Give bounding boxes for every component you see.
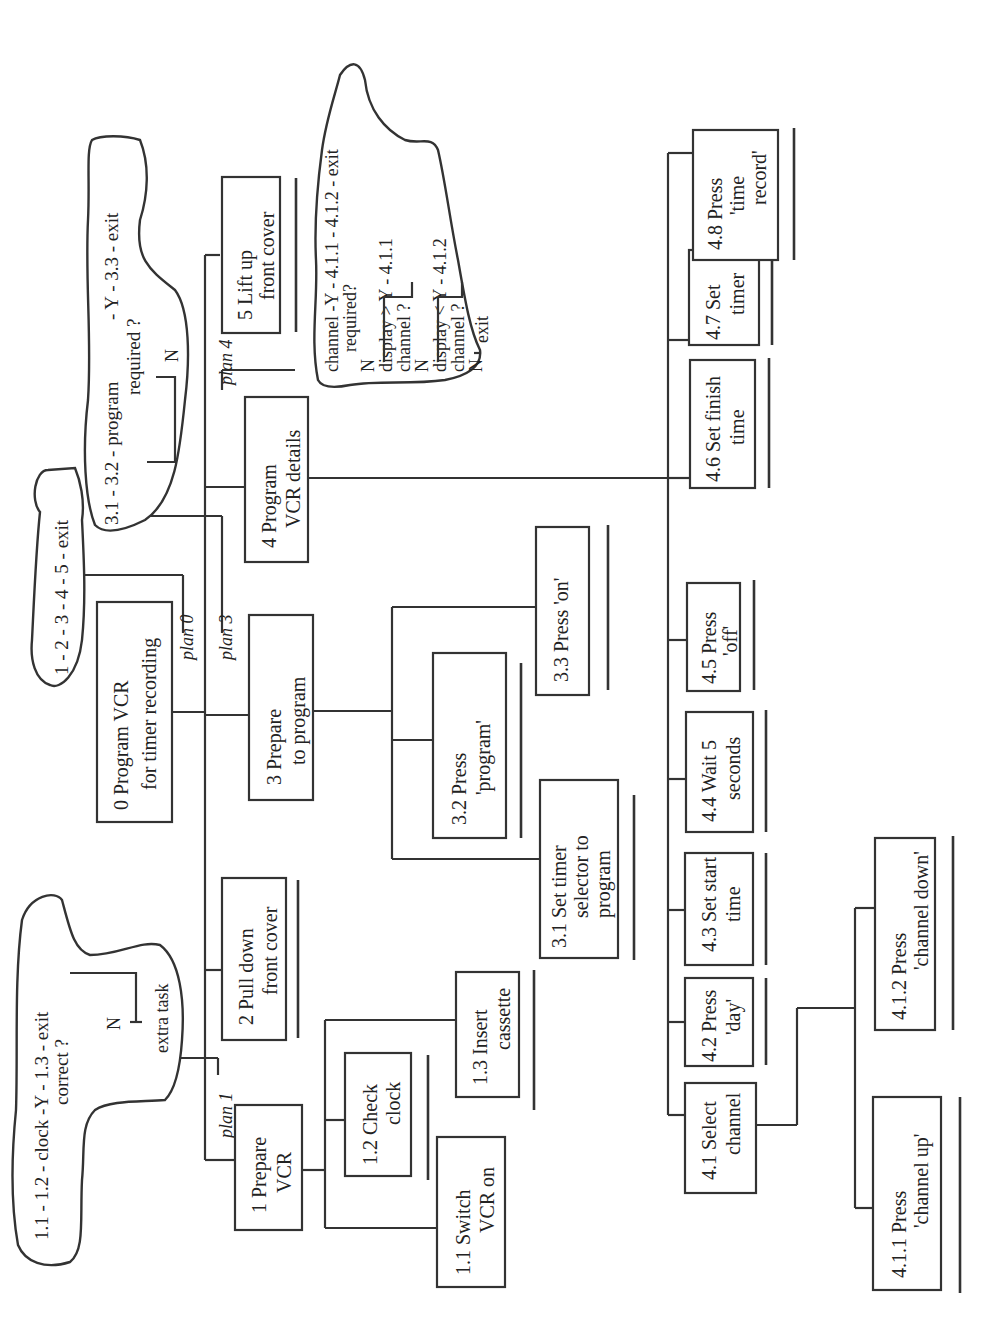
plan-3-n: N [162,349,182,362]
task-1-1-switch-vcr-on: 1.1 Switch VCR on [437,1137,505,1287]
plan-4-line2: required? [340,284,360,352]
task-4-8-press-time-record: 4.8 Press 'time record' [693,128,794,260]
task-4-program-vcr-details: 4 Program VCR details [245,397,308,562]
task-0-program-vcr: 0 Program VCR for timer recording [97,602,172,822]
task-4-1-2-line2: 'channel down' [910,851,932,970]
plan-1-n: N [104,1017,124,1030]
task-4-3-line2: time [722,886,744,922]
plan-0-label: plan 0 [177,614,197,662]
plan-4-line8: channel ? [448,304,468,372]
task-4-6-line2: time [726,409,748,445]
task-4-1-1-press-channel-up: 4.1.1 Press 'channel up' [873,1097,960,1293]
task-1-3-insert-cassette: 1.3 Insert cassette [456,970,534,1110]
plan-4-line3: N [358,359,378,372]
task-4-4-wait-5-seconds: 4.4 Wait 5 seconds [686,710,766,832]
task-1-2-line1: 1.2 Check [359,1084,381,1165]
task-4-8-line2: 'time [726,176,748,215]
task-4-8-line1: 4.8 Press [704,178,726,250]
task-5-lift-up-cover: 5 Lift up front cover [222,177,296,333]
task-4-4-line1: 4.4 Wait 5 [698,740,720,822]
hta-diagram: 1 - 2 - 3 - 4 - 5 - exit plan 0 1.1 - 1.… [0,0,984,1327]
task-3-line1: 3 Prepare [263,709,286,785]
task-4-line1: 4 Program [258,464,281,548]
task-3-1-line3: program [592,850,615,918]
task-1-1-line1: 1.1 Switch [452,1189,474,1275]
plan-4-line1: channel -Y - 4.1.1 - 4.1.2 - exit [322,149,342,372]
plan-1-label: plan 1 [216,1092,236,1140]
plan-3-line1: 3.1 - 3.2 - program [101,381,122,525]
task-2-line2: front cover [259,906,281,995]
task-1-3-line2: cassette [492,988,514,1050]
task-3-2-line2: 'program' [472,720,495,795]
task-3-prepare-to-program: 3 Prepare to program [249,615,313,800]
task-4-8-line3: record' [748,150,770,205]
task-4-7-set-timer: 4.7 Set timer [689,250,772,345]
plan-1-line2: correct ? [51,1039,72,1105]
task-4-2-line2: 'day' [722,999,745,1035]
task-4-1-line2: channel [722,1092,744,1155]
plan-3-line2: required ? [123,319,144,395]
task-1-1-line2: VCR on [476,1167,498,1233]
task-1-2-line2: clock [382,1082,404,1125]
task-3-line2: to program [287,676,310,765]
task-1-line2: VCR [273,1151,295,1193]
task-5-line1: 5 Lift up [234,250,257,320]
task-3-3-press-on: 3.3 Press 'on' [536,525,608,695]
plan-4-line6: N [412,359,432,372]
task-4-1-2-press-channel-down: 4.1.2 Press 'channel down' [875,836,953,1030]
plan-4-exit: exit [472,316,492,343]
task-3-1-line2: selector to [570,835,592,918]
task-0-line1: 0 Program VCR [110,680,133,810]
task-4-1-1-line1: 4.1.1 Press [888,1191,910,1278]
task-4-1-line1: 4.1 Select [698,1101,720,1180]
task-3-1-line1: 3.1 Set timer [548,845,570,948]
task-4-6-line1: 4.6 Set finish [702,376,724,482]
plan-4-cloud: channel -Y - 4.1.1 - 4.1.2 - exit requir… [314,64,492,387]
plan-3-line3: - Y - 3.3 - exit [101,212,122,320]
task-3-3-line1: 3.3 Press 'on' [550,578,572,682]
plan-1-line1: 1.1 - 1.2 - clock -Y - 1.3 - exit [31,1011,52,1240]
task-4-5-line2: 'off' [719,626,741,656]
task-3-2-line1: 3.2 Press [448,753,470,825]
task-4-3-line1: 4.3 Set start [698,857,720,952]
task-3-2-press-program: 3.2 Press 'program' [433,653,521,838]
task-4-1-1-line2: 'channel up' [910,1134,933,1228]
task-4-1-2-line1: 4.1.2 Press [888,933,910,1020]
task-4-1-select-channel: 4.1 Select channel [685,1083,756,1193]
plan-0-text: 1 - 2 - 3 - 4 - 5 - exit [51,519,72,675]
task-1-line1: 1 Prepare [248,1137,271,1213]
plan-4-label: plan 4 [216,339,236,387]
task-5-line2: front cover [256,211,278,300]
task-4-5-line1: 4.5 Press [698,612,720,684]
task-1-3-line1: 1.3 Insert [469,1009,491,1085]
plan-4-line4: display > Y - 4.1.1 [376,238,396,372]
plan-3-label: plan 3 [216,614,236,662]
task-4-7-line1: 4.7 Set [702,284,724,340]
plan-4-line7: display < Y - 4.1.2 [430,238,450,372]
task-2-pull-down-cover: 2 Pull down front cover [222,878,298,1040]
plan-4-line9: N [466,359,486,372]
plan-3-cloud: 3.1 - 3.2 - program required ? - Y - 3.3… [85,136,188,530]
plan-1-extra-task: extra task [152,984,172,1053]
task-4-4-line2: seconds [722,736,744,800]
task-4-2-press-day: 4.2 Press 'day' [685,978,766,1066]
task-4-6-set-finish-time: 4.6 Set finish time [690,358,769,488]
plan-4-line5: channel ? [394,304,414,372]
task-3-1-set-timer-selector: 3.1 Set timer selector to program [540,780,634,960]
task-4-2-line1: 4.2 Press [698,990,720,1062]
plan-1-cloud: 1.1 - 1.2 - clock -Y - 1.3 - exit correc… [13,895,183,1265]
task-4-7-line2: timer [726,272,748,315]
task-4-3-set-start-time: 4.3 Set start time [685,853,766,965]
plan-0-cloud: 1 - 2 - 3 - 4 - 5 - exit [32,468,85,686]
task-1-prepare-vcr: 1 Prepare VCR [235,1105,302,1230]
task-1-2-check-clock: 1.2 Check clock [345,1053,428,1180]
task-2-line1: 2 Pull down [235,928,257,1025]
task-4-5-press-off: 4.5 Press 'off' [687,580,754,691]
task-0-line2: for timer recording [138,638,161,790]
task-4-line2: VCR details [282,429,304,528]
